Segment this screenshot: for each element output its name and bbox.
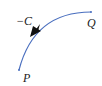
- curve-diagram: [0, 0, 102, 86]
- point-q-label: Q: [87, 17, 96, 29]
- point-p-marker: [18, 69, 20, 71]
- point-q-marker: [90, 11, 92, 13]
- point-p-label: P: [23, 72, 30, 84]
- curve-label: −C: [16, 15, 32, 27]
